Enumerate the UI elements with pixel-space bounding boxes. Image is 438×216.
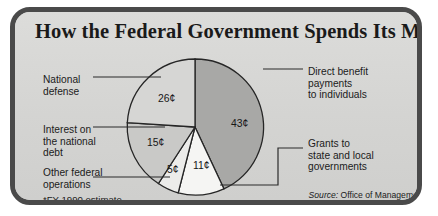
label-direct-benefit: Direct benefit payments to individuals xyxy=(308,66,368,101)
figure-root: How the Federal Government Spends Its Mo… xyxy=(0,0,438,216)
value-interest: 15¢ xyxy=(147,137,164,148)
footnote: *FY 1990 estimate xyxy=(43,194,122,200)
value-other-federal: 5¢ xyxy=(167,164,179,175)
source-line1: Office of Management xyxy=(338,190,417,200)
value-direct-benefit: 43¢ xyxy=(231,118,248,129)
value-grants: 11¢ xyxy=(193,160,210,171)
label-national-defense: National defense xyxy=(43,74,80,97)
label-grants: Grants to state and local governments xyxy=(308,138,374,173)
source-note: Source: Office of Management and Budget xyxy=(277,190,417,200)
value-national-defense: 26¢ xyxy=(158,93,175,104)
chart-panel: How the Federal Government Spends Its Mo… xyxy=(10,7,422,205)
label-other-federal: Other federal operations xyxy=(43,167,102,190)
chart-panel-inner: How the Federal Government Spends Its Mo… xyxy=(15,12,417,200)
label-interest: Interest on the national debt xyxy=(43,124,96,159)
source-prefix: Source: xyxy=(309,190,339,200)
